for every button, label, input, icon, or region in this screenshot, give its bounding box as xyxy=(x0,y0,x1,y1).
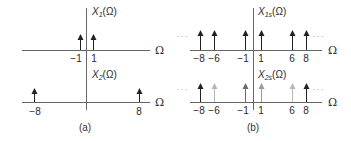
arrow-head-icon xyxy=(91,34,97,40)
arrow-head-icon xyxy=(212,83,218,89)
tick-label: 8 xyxy=(136,106,142,117)
tick-label: −1 xyxy=(237,105,249,116)
ellipsis-left: · · · xyxy=(177,86,188,93)
axis-label-omega: Ω xyxy=(155,96,164,109)
arrow-head-icon xyxy=(198,83,204,89)
panel-b: Ω X1s(Ω) · · · · · · −8 −6 −1 1 6 xyxy=(177,6,338,133)
axis-label-omega: Ω xyxy=(328,96,337,109)
impulse: −6 xyxy=(208,83,220,116)
plot-x2s: Ω X2s(Ω) · · · · · · −8 −6 −1 1 6 xyxy=(177,69,338,116)
tick-label: 8 xyxy=(303,53,309,64)
panel-caption: (a) xyxy=(79,122,91,133)
plot-title: X2s(Ω) xyxy=(257,69,286,81)
arrow-head-icon xyxy=(78,34,84,40)
arrow-head-icon xyxy=(259,30,265,36)
arrow-head-icon xyxy=(290,30,296,36)
tick-label: 8 xyxy=(303,105,309,116)
impulse: 6 xyxy=(289,83,295,116)
plot-x2: Ω X2(Ω) −8 8 xyxy=(22,69,164,117)
impulse: −8 xyxy=(193,30,205,64)
arrow-head-icon xyxy=(259,83,265,89)
arrow-head-icon xyxy=(304,83,310,89)
panel-caption: (b) xyxy=(247,122,259,133)
arrow-head-icon xyxy=(212,30,218,36)
impulse: −6 xyxy=(208,30,220,64)
plot-title: X1(Ω) xyxy=(91,6,117,18)
impulse: −8 xyxy=(193,83,205,116)
arrow-head-icon xyxy=(198,30,204,36)
tick-label: −8 xyxy=(29,106,41,117)
impulse: 1 xyxy=(91,34,98,64)
axis-label-omega: Ω xyxy=(328,44,337,57)
plot-title: X2(Ω) xyxy=(91,69,117,81)
impulse: 1 xyxy=(258,30,264,64)
arrow-head-icon xyxy=(243,83,249,89)
ellipsis-right: · · · xyxy=(313,86,324,93)
impulse: −1 xyxy=(237,83,249,116)
tick-label: −6 xyxy=(208,105,220,116)
tick-label: −8 xyxy=(193,53,205,64)
impulse: 8 xyxy=(303,83,309,116)
impulse: −1 xyxy=(70,34,83,64)
tick-label: 6 xyxy=(289,53,295,64)
plot-x1s: Ω X1s(Ω) · · · · · · −8 −6 −1 1 6 xyxy=(177,6,338,64)
impulse: 6 xyxy=(289,30,295,64)
impulse: 8 xyxy=(303,30,309,64)
panel-a: Ω X1(Ω) −1 1 Ω X2(Ω) −8 xyxy=(22,6,164,133)
arrow-head-icon xyxy=(304,30,310,36)
tick-label: 1 xyxy=(258,53,264,64)
tick-label: −8 xyxy=(193,105,205,116)
tick-label: −1 xyxy=(70,53,82,64)
impulse: 1 xyxy=(258,83,264,116)
arrow-head-icon xyxy=(137,88,143,94)
tick-label: −6 xyxy=(208,53,220,64)
plot-x1: Ω X1(Ω) −1 1 xyxy=(22,6,164,64)
arrow-head-icon xyxy=(243,30,249,36)
ellipsis-left: · · · xyxy=(177,33,188,40)
tick-label: −1 xyxy=(237,53,249,64)
axis-label-omega: Ω xyxy=(155,44,164,57)
spectrum-diagram: Ω X1(Ω) −1 1 Ω X2(Ω) −8 xyxy=(0,0,351,141)
arrow-head-icon xyxy=(290,83,296,89)
plot-title: X1s(Ω) xyxy=(257,6,286,18)
tick-label: 1 xyxy=(91,53,97,64)
tick-label: 6 xyxy=(289,105,295,116)
arrow-head-icon xyxy=(32,88,38,94)
ellipsis-right: · · · xyxy=(313,33,324,40)
impulse: −1 xyxy=(237,30,249,64)
tick-label: 1 xyxy=(258,105,264,116)
